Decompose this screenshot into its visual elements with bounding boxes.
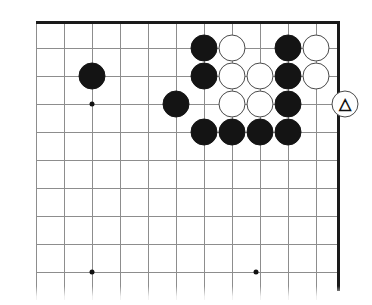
go-board-diagram: △ [0,0,372,305]
bottom-fade-mask [0,286,372,305]
grid-line-horizontal-6 [36,216,338,217]
white-stone-marked-triangle[interactable]: △ [332,91,359,118]
white-stone[interactable] [303,63,330,90]
black-stone[interactable] [219,119,246,146]
white-stone[interactable] [219,63,246,90]
triangle-icon: △ [333,92,358,117]
white-stone[interactable] [219,91,246,118]
grid-line-horizontal-7 [36,244,338,245]
hoshi-upper-left [90,102,95,107]
black-stone[interactable] [275,91,302,118]
white-stone[interactable] [247,63,274,90]
black-stone[interactable] [191,35,218,62]
hoshi-lower-left [90,270,95,275]
black-stone[interactable] [247,119,274,146]
white-stone[interactable] [219,35,246,62]
black-stone[interactable] [79,63,106,90]
black-stone[interactable] [275,63,302,90]
white-stone[interactable] [303,35,330,62]
board-right-edge [337,21,340,291]
grid-line-horizontal-4 [36,160,338,161]
grid-line-horizontal-8 [36,272,338,273]
black-stone[interactable] [275,35,302,62]
black-stone[interactable] [191,119,218,146]
black-stone[interactable] [191,63,218,90]
board-top-edge [36,21,340,24]
black-stone[interactable] [275,119,302,146]
grid-line-horizontal-5 [36,188,338,189]
black-stone[interactable] [163,91,190,118]
hoshi-lower-right [254,270,259,275]
white-stone[interactable] [247,91,274,118]
